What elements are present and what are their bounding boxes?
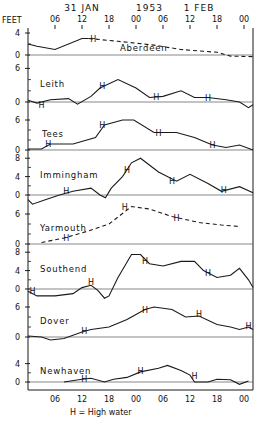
high-water-marker: H (221, 186, 227, 195)
high-water-marker: H (155, 129, 161, 138)
x-tick-label-bottom: 18 (212, 395, 222, 404)
panel-newhaven: 04HHHNewhaven (15, 360, 253, 387)
y-tick-label: 6 (15, 64, 20, 73)
date-label: 31 JAN (64, 3, 100, 13)
chart-header: 31 JAN19531 FEBFEET0612180006121800 (2, 3, 249, 29)
panel-leith: 06HHHHLeith (15, 64, 253, 109)
tide-surge-chart: 31 JAN19531 FEBFEET0612180006121800 04HA… (0, 0, 269, 422)
y-tick-label: 6 (15, 210, 20, 219)
high-water-marker: H (142, 306, 148, 315)
x-tick-label-bottom: 18 (104, 395, 114, 404)
panel-dover: 06HHHHDover (15, 303, 253, 342)
high-water-marker: H (205, 269, 211, 278)
high-water-marker: H (99, 82, 105, 91)
x-tick-label-top: 00 (239, 15, 249, 24)
surge-curve (28, 255, 253, 299)
y-tick-label: 6 (15, 303, 20, 312)
high-water-marker: H (137, 367, 143, 376)
high-water-marker: H (99, 121, 105, 130)
y-axis-unit-label: FEET (2, 16, 22, 25)
x-tick-label-top: 12 (77, 15, 87, 24)
y-tick-label: 0 (15, 98, 20, 107)
chart-panels: 04HAberdeen06HHHHLeith06HHHHTees048HHHHI… (15, 28, 253, 390)
x-tick-label-top: 18 (212, 15, 222, 24)
high-water-marker: H (45, 140, 51, 149)
y-tick-label: 0 (15, 378, 20, 387)
high-water-marker: H (124, 166, 130, 175)
y-tick-label: 8 (15, 154, 20, 163)
chart-footer: 0612180006121800H = High water (50, 395, 249, 417)
x-tick-label-top: 12 (185, 15, 195, 24)
x-tick-label-top: 06 (158, 15, 168, 24)
high-water-marker: H (209, 141, 215, 150)
high-water-marker: H (29, 287, 35, 296)
y-tick-label: 4 (15, 29, 20, 38)
x-tick-label-bottom: 00 (239, 395, 249, 404)
x-tick-label-bottom: 06 (158, 395, 168, 404)
panel-southend: 048HHHHSouthend (15, 248, 253, 298)
x-tick-label-top: 00 (131, 15, 141, 24)
x-tick-label-bottom: 12 (77, 395, 87, 404)
y-tick-label: 4 (15, 360, 20, 369)
x-tick-label-top: 18 (104, 15, 114, 24)
high-water-marker: H (196, 310, 202, 319)
station-label: Southend (40, 264, 87, 274)
y-tick-label: 6 (15, 116, 20, 125)
y-tick-label: 8 (15, 248, 20, 257)
y-tick-label: 4 (15, 267, 20, 276)
high-water-marker: H (63, 187, 69, 196)
high-water-marker: H (191, 372, 197, 381)
high-water-marker: H (142, 257, 148, 266)
y-tick-label: 4 (15, 173, 20, 182)
high-water-marker: H (122, 203, 128, 212)
high-water-marker: H (169, 177, 175, 186)
station-label: Dover (40, 316, 70, 326)
panel-aberdeen: 04HAberdeen (15, 29, 253, 60)
x-tick-label-bottom: 00 (131, 395, 141, 404)
station-label: Immingham (40, 170, 98, 180)
high-water-marker: H (245, 322, 251, 331)
station-label: Tees (41, 129, 64, 139)
surge-curve (28, 39, 89, 50)
station-label: Leith (40, 79, 65, 89)
panel-tees: 06HHHHTees (15, 116, 253, 155)
high-water-marker: H (81, 375, 87, 384)
y-tick-label: 0 (15, 285, 20, 294)
x-tick-label-bottom: 06 (50, 395, 60, 404)
high-water-marker: H (90, 35, 96, 44)
station-label: Yarmouth (39, 223, 87, 233)
surge-curve-dashed (89, 39, 253, 57)
y-tick-label: 0 (15, 333, 20, 342)
high-water-marker: H (153, 93, 159, 102)
high-water-marker: H (38, 101, 44, 110)
date-label: 1 FEB (184, 3, 215, 13)
panel-immingham: 048HHHHImmingham (15, 154, 253, 204)
station-label: Aberdeen (120, 43, 167, 53)
x-tick-label-bottom: 12 (185, 395, 195, 404)
x-tick-label-top: 06 (50, 15, 60, 24)
date-label: 1953 (136, 3, 163, 13)
legend-note: H = High water (70, 408, 132, 417)
high-water-marker: H (173, 214, 179, 223)
high-water-marker: H (81, 327, 87, 336)
high-water-marker: H (205, 94, 211, 103)
panel-yarmouth: 06HHHYarmouth (15, 203, 253, 250)
station-label: Newhaven (40, 366, 91, 376)
high-water-marker: H (88, 278, 94, 287)
surge-curve (64, 365, 249, 384)
y-tick-label: 0 (15, 51, 20, 60)
y-tick-label: 0 (15, 191, 20, 200)
surge-curve (28, 158, 253, 204)
high-water-marker: H (63, 234, 69, 243)
